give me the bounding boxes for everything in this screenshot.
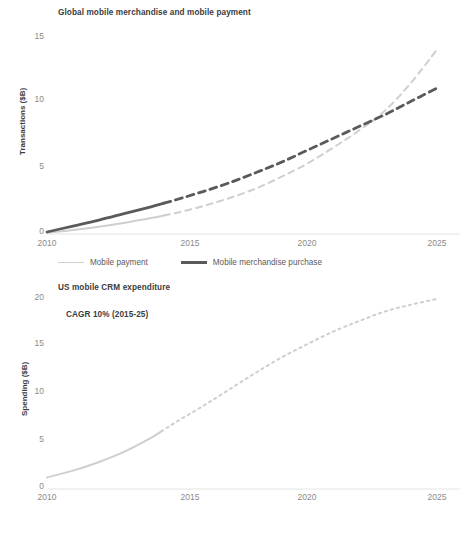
legend-top: Mobile payment Mobile merchandise purcha… — [58, 258, 322, 267]
plot-area-top — [0, 0, 464, 280]
legend-swatch-mobile-payment — [58, 262, 84, 264]
legend-label-mobile-payment: Mobile payment — [90, 258, 148, 267]
legend-item-mobile-merchandise-purchase[interactable]: Mobile merchandise purchase — [181, 258, 322, 267]
legend-swatch-mobile-merchandise-purchase — [181, 261, 207, 264]
legend-label-mobile-merchandise-purchase: Mobile merchandise purchase — [213, 258, 322, 267]
chart-us-mobile-crm-expenditure: US mobile CRM expenditure CAGR 10% (2015… — [0, 270, 464, 533]
chart-global-mobile-merchandise-and-payment: Global mobile merchandise and mobile pay… — [0, 0, 464, 280]
series-line-us-mobile-crm-expenditure — [47, 431, 161, 477]
legend-item-mobile-payment[interactable]: Mobile payment — [58, 258, 148, 267]
series-group-top — [47, 50, 437, 233]
plot-area-bottom — [0, 270, 464, 533]
series-line-us-mobile-crm-expenditure — [161, 299, 437, 431]
series-group-bottom — [47, 299, 437, 478]
series-line-mobile-merchandise-purchase — [47, 203, 164, 232]
series-line-mobile-merchandise-purchase — [164, 88, 437, 203]
